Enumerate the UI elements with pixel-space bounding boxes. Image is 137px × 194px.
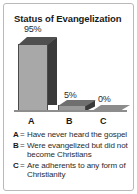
legend-item: B = Were evangelized but did not become … — [13, 141, 134, 160]
x-axis-tick-a: A — [28, 116, 35, 126]
bar-value-label-a: 95% — [24, 24, 41, 34]
bar-a-front-face — [18, 44, 48, 112]
legend-item: A = Have never heard the gospel — [13, 130, 134, 140]
legend-equals-b: = — [20, 141, 27, 151]
legend-key-b: B — [13, 141, 20, 151]
chart-panel: Status of Evangelization 95% 5% 0% — [0, 0, 137, 194]
chart-legend: A = Have never heard the gospel B = Were… — [13, 130, 134, 181]
bar-chart: 95% 5% 0% — [12, 24, 132, 124]
bar-a-side-face — [48, 37, 57, 105]
bar-value-label-b: 5% — [64, 90, 77, 100]
x-axis-tick-b: B — [66, 116, 73, 126]
x-axis-labels: A B C — [12, 116, 132, 128]
bar-a — [18, 37, 63, 112]
legend-text-a: Have never heard the gospel — [27, 130, 127, 140]
x-axis-tick-c: C — [100, 116, 107, 126]
legend-text-b: Were evangelized but did not become Chri… — [27, 141, 134, 160]
legend-item: C = Are adherents to any form of Christi… — [13, 161, 134, 180]
panel-border: Status of Evangelization 95% 5% 0% — [3, 3, 134, 191]
legend-text-c: Are adherents to any form of Christianit… — [27, 161, 134, 180]
page-title: Status of Evangelization — [14, 13, 121, 24]
legend-equals-a: = — [20, 130, 27, 140]
legend-key-a: A — [13, 130, 20, 140]
legend-equals-c: = — [20, 161, 27, 171]
chart-baseline — [14, 110, 127, 112]
legend-key-c: C — [13, 161, 20, 171]
